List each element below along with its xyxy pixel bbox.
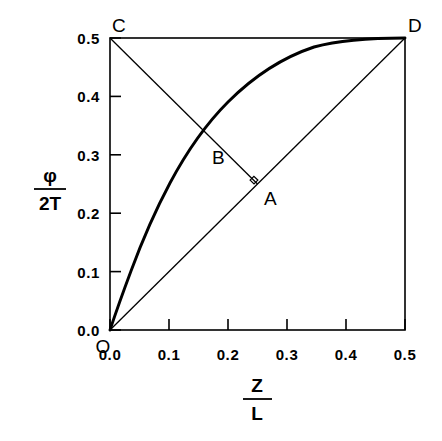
- x-tick-label-3: 0.3: [276, 346, 299, 363]
- plot-svg: 0.0 0.1 0.2 0.3 0.4 0.5 0.0 0.1 0.2 0.3 …: [0, 0, 442, 441]
- chart-figure: 0.0 0.1 0.2 0.3 0.4 0.5 0.0 0.1 0.2 0.3 …: [0, 0, 442, 441]
- y-tick-label-4: 0.4: [77, 88, 100, 105]
- x-tick-label-4: 0.4: [335, 346, 358, 363]
- y-tick-label-3: 0.3: [77, 147, 100, 164]
- x-axis-title-denominator: L: [251, 403, 263, 424]
- y-tick-label-1: 0.1: [77, 264, 100, 281]
- point-label-c: C: [112, 15, 126, 36]
- y-tick-label-2: 0.2: [77, 205, 100, 222]
- y-axis-title-numerator: φ: [43, 165, 57, 186]
- y-tick-label-5: 0.5: [77, 30, 100, 47]
- point-label-d: D: [408, 15, 422, 36]
- x-tick-label-2: 0.2: [217, 346, 240, 363]
- x-tick-label-1: 0.1: [158, 346, 181, 363]
- point-label-o: O: [96, 336, 111, 357]
- x-tick-label-5: 0.5: [394, 346, 417, 363]
- point-label-a: A: [264, 188, 277, 209]
- point-label-b: B: [212, 147, 225, 168]
- y-axis-title-denominator: 2T: [39, 193, 62, 214]
- x-axis-title-numerator: Z: [251, 375, 263, 396]
